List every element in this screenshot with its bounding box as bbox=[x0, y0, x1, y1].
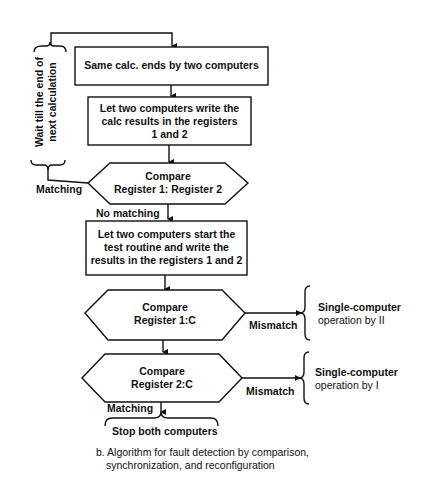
loop-wait-label-line1: Wait till the end of bbox=[33, 42, 46, 162]
edge-label-matching-top: Matching bbox=[36, 183, 82, 196]
outcome1-line2: operation by II bbox=[318, 314, 401, 327]
edge-label-no-matching: No matching bbox=[96, 207, 160, 220]
step-same-calc-ends: Same calc. ends by two computers bbox=[75, 59, 268, 72]
step-write-registers-line2: calc results in the registers bbox=[88, 115, 251, 128]
step-test-routine-line2: test routine and write the bbox=[86, 241, 247, 254]
outcome2-line2: operation by I bbox=[315, 379, 398, 392]
step-test-routine: Let two computers start the test routine… bbox=[86, 228, 247, 267]
decision-compare-reg1-c: Compare Register 1:C bbox=[85, 301, 245, 327]
decision2-line1: Compare bbox=[85, 301, 245, 314]
edge-label-mismatch-1: Mismatch bbox=[249, 319, 297, 332]
step-test-routine-line3: results in the registers 1 and 2 bbox=[86, 254, 247, 267]
caption-line1: b. Algorithm for fault detection by comp… bbox=[96, 446, 309, 459]
decision1-line1: Compare bbox=[88, 170, 248, 183]
outcome2-line1: Single-computer bbox=[315, 366, 398, 379]
step-test-routine-line1: Let two computers start the bbox=[86, 228, 247, 241]
outcome-single-computer-ii: Single-computer operation by II bbox=[318, 301, 401, 327]
figure-caption: b. Algorithm for fault detection by comp… bbox=[96, 446, 309, 472]
step-write-registers-line1: Let two computers write the bbox=[88, 102, 251, 115]
decision3-line2: Register 2:C bbox=[82, 378, 242, 391]
decision-compare-reg2-c: Compare Register 2:C bbox=[82, 365, 242, 391]
edge-label-matching-bottom: Matching bbox=[107, 402, 153, 415]
outcome-single-computer-i: Single-computer operation by I bbox=[315, 366, 398, 392]
loop-wait-label-line2: next calculation bbox=[46, 42, 59, 162]
caption-line2: synchronization, and reconfiguration bbox=[96, 459, 309, 472]
decision2-line2: Register 1:C bbox=[85, 314, 245, 327]
decision3-line1: Compare bbox=[82, 365, 242, 378]
step-write-registers: Let two computers write the calc results… bbox=[88, 102, 251, 141]
loop-wait-label: Wait till the end of next calculation bbox=[33, 42, 63, 162]
edge-label-mismatch-2: Mismatch bbox=[246, 385, 294, 398]
decision-compare-reg1-reg2: Compare Register 1: Register 2 bbox=[88, 170, 248, 196]
step-write-registers-line3: 1 and 2 bbox=[88, 128, 251, 141]
outcome1-line1: Single-computer bbox=[318, 301, 401, 314]
outcome-stop-both: Stop both computers bbox=[112, 425, 218, 438]
decision1-line2: Register 1: Register 2 bbox=[88, 183, 248, 196]
